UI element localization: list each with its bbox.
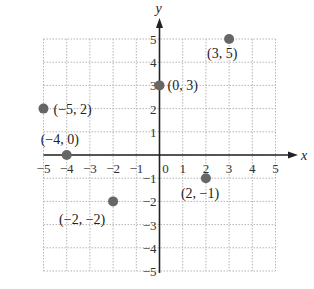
point-label: (3, 5) [207,46,238,62]
x-tick-label: −2 [106,161,120,176]
point-label: (−2, −2) [59,212,105,228]
x-tick-label: 4 [249,161,256,176]
data-point [108,196,118,206]
point-label: (0, 3) [168,78,199,94]
y-tick-label: −5 [143,264,157,279]
x-tick-label: −4 [60,161,74,176]
x-tick-label: 5 [272,161,279,176]
x-tick-label: −5 [37,161,51,176]
x-tick-label: −1 [129,161,143,176]
x-axis-arrow-icon [288,152,298,159]
y-tick-label: 4 [150,55,157,70]
x-tick-label: 1 [179,161,186,176]
data-point [62,150,72,160]
y-tick-label: −2 [143,194,157,209]
data-point [201,173,211,183]
y-tick-label: −1 [143,171,157,186]
x-tick-label: −3 [83,161,97,176]
x-axis-label: x [300,148,308,163]
y-tick-label: −4 [143,241,157,256]
point-label: (−4, 0) [41,132,80,148]
point-label: (−5, 2) [54,102,93,118]
x-tick-label: 0 [162,161,169,176]
y-tick-label: 5 [150,32,157,47]
y-axis-label: y [154,1,163,16]
y-tick-label: 1 [150,125,157,140]
coordinate-plane: xy−5−4−3−2−101234554321−1−2−3−4−5(3, 5)(… [0,0,314,289]
data-point [155,80,165,90]
y-tick-label: −3 [143,218,157,233]
y-axis-arrow-icon [156,18,163,28]
data-point [39,104,49,114]
x-tick-label: 3 [226,161,233,176]
data-point [224,34,234,44]
point-label: (2, −1) [181,186,220,202]
y-tick-label: 2 [150,102,157,117]
